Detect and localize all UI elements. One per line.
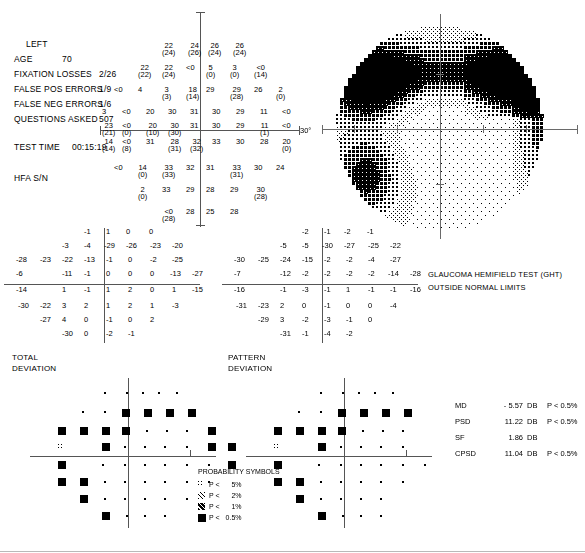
deviation-value: -1 xyxy=(106,256,113,264)
degree-label: 30° xyxy=(300,126,311,135)
deviation-value: -16 xyxy=(410,286,421,294)
sensitivity-cell: 3(0) xyxy=(230,64,239,78)
deviation-value: -2 xyxy=(302,270,309,278)
p5-symbol-icon xyxy=(198,481,203,487)
sensitivity-cell-value: 29 xyxy=(186,186,194,194)
sensitivity-cell-retest: (21) xyxy=(102,129,115,137)
sensitivity-cell-retest: (10) xyxy=(146,129,159,137)
sensitivity-cell-value: <0 xyxy=(114,164,123,172)
deviation-value: -2 xyxy=(346,330,353,338)
deviation-value: -1 xyxy=(84,286,91,294)
sensitivity-cell: 29 xyxy=(236,122,244,130)
numeric-sensitivity-plot: 22(24)24(26)26(24)26(24)22(22)22(24)<05(… xyxy=(100,12,300,227)
sensitivity-cell: 26(24) xyxy=(208,42,221,56)
sensitivity-cell: 30 xyxy=(212,122,220,130)
deviation-value: -2 xyxy=(302,228,309,236)
normal-point-icon xyxy=(402,446,404,448)
sensitivity-cell-value: 31 xyxy=(190,108,198,116)
sensitivity-cell-value: <0 xyxy=(186,64,195,72)
deviation-value: 2 xyxy=(128,302,132,310)
deviation-value: -16 xyxy=(234,286,245,294)
deviation-value: -3 xyxy=(302,286,309,294)
legend-p5-pct: 5% xyxy=(220,479,242,490)
deviation-value: -4 xyxy=(324,330,331,338)
sensitivity-axis-tick xyxy=(196,225,205,226)
deviation-value: -1 xyxy=(324,302,331,310)
sensitivity-cell: 30 xyxy=(254,164,262,172)
normal-point-icon xyxy=(360,515,362,517)
deviation-value: -31 xyxy=(280,330,291,338)
deviation-value: 2 xyxy=(150,316,154,324)
p05-symbol-icon xyxy=(58,478,66,486)
p05-symbol-icon xyxy=(122,427,130,435)
p05-symbol-icon xyxy=(382,409,390,417)
ght-result: OUTSIDE NORMAL LIMITS xyxy=(428,281,562,294)
sensitivity-cell-value: 30 xyxy=(236,138,244,146)
normal-point-icon xyxy=(318,464,320,466)
sensitivity-cell: 29(28) xyxy=(230,86,243,100)
deviation-value: -1 xyxy=(367,228,374,236)
sensitivity-cell: 11 xyxy=(260,108,268,116)
sensitivity-cell-retest: (14) xyxy=(186,93,199,101)
p05-symbol-icon xyxy=(122,409,130,417)
normal-point-icon xyxy=(186,430,188,432)
td-prob-vertical-axis xyxy=(128,378,129,528)
deviation-value: -1 xyxy=(390,286,397,294)
normal-point-icon xyxy=(340,446,342,448)
md-p-value: P < 0.5% xyxy=(547,398,578,414)
normal-point-icon xyxy=(340,481,342,483)
deviation-value: -22 xyxy=(40,302,51,310)
total-deviation-title-line2: DEVIATION xyxy=(12,363,56,374)
deviation-value: 4 xyxy=(62,316,66,324)
normal-point-icon xyxy=(360,498,362,500)
sensitivity-cell-value: <0 xyxy=(282,122,291,130)
normal-point-icon xyxy=(320,498,322,500)
legend-p2-pct: 2% xyxy=(220,490,242,501)
deviation-value: -15 xyxy=(302,256,313,264)
deviation-value: 0 xyxy=(150,270,154,278)
p05-symbol-icon xyxy=(166,409,174,417)
legend-p05-pct: 0.5% xyxy=(220,512,242,523)
p05-symbol-icon xyxy=(80,495,88,503)
test-time-label: TEST TIME xyxy=(14,143,60,152)
normal-point-icon xyxy=(382,430,384,432)
sensitivity-cell-retest: (1) xyxy=(260,129,269,137)
sensitivity-cell: 28 xyxy=(186,208,194,216)
legend-p5-text: P < xyxy=(209,479,220,490)
sensitivity-cell: 30 xyxy=(236,138,244,146)
sensitivity-cell-value: 30 xyxy=(212,122,220,130)
total-deviation-numeric-grid: -1100-3-4-29-26-23-20-28-23-22-13-10-2-2… xyxy=(4,228,204,343)
normal-point-icon xyxy=(402,481,404,483)
sensitivity-cell: 31 xyxy=(190,108,198,116)
sensitivity-cell-value: 30 xyxy=(254,164,262,172)
sensitivity-cell-retest: (26) xyxy=(188,49,201,57)
p05-symbol-icon xyxy=(102,427,110,435)
sensitivity-cell-retest: (32) xyxy=(190,145,203,153)
deviation-value: -4 xyxy=(368,256,375,264)
p05-symbol-icon xyxy=(80,427,88,435)
sensitivity-cell-value: <0 xyxy=(122,108,131,116)
p05-symbol-icon xyxy=(208,443,216,451)
sensitivity-cell: <0 xyxy=(122,108,131,116)
sensitivity-cell: 30 xyxy=(168,108,176,116)
sensitivity-cell: 28 xyxy=(206,186,214,194)
deviation-value: -27 xyxy=(344,242,355,250)
legend-item-p5: P <5% xyxy=(198,479,280,490)
sensitivity-cell: 23(21) xyxy=(102,122,115,136)
p05-symbol-icon xyxy=(360,409,368,417)
deviation-value: -29 xyxy=(258,316,269,324)
deviation-value: -23 xyxy=(258,302,269,310)
deviation-value: 0 xyxy=(84,330,88,338)
sensitivity-cell-value: 4 xyxy=(138,86,142,94)
legend-item-p2: P <2% xyxy=(198,490,280,501)
deviation-value: -5 xyxy=(280,242,287,250)
p2-symbol-icon xyxy=(198,491,209,499)
p05-symbol-icon xyxy=(80,478,88,486)
deviation-value: -1 xyxy=(324,286,331,294)
pattern-deviation-title: PATTERN DEVIATION xyxy=(228,352,272,374)
fixation-losses-label: FIXATION LOSSES xyxy=(14,70,92,79)
sensitivity-cell-retest: (31) xyxy=(230,171,243,179)
pattern-deviation-title-line1: PATTERN xyxy=(228,352,272,363)
pattern-deviation-title-line2: DEVIATION xyxy=(228,363,272,374)
sensitivity-cell-retest: (0) xyxy=(138,193,147,201)
